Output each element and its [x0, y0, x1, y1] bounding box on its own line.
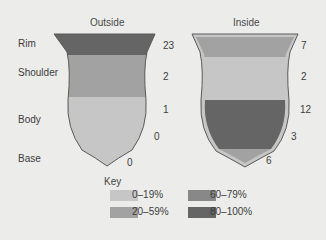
inside-shoulder-band — [190, 57, 300, 100]
outside-shoulder-value: 2 — [163, 71, 169, 82]
outside-body-value: 1 — [163, 104, 169, 115]
inside-lower-body-value: 3 — [291, 131, 297, 142]
inside-body-value: 12 — [300, 104, 311, 115]
inside-shoulder-value: 2 — [301, 71, 307, 82]
inside-pot — [190, 30, 300, 169]
key-label-80-100: 80–100% — [210, 206, 252, 217]
outside-lower-body-value: 0 — [154, 131, 160, 142]
inside-base-value: 6 — [266, 155, 272, 166]
inside-rim-value: 7 — [301, 40, 307, 51]
outside-body-band — [50, 97, 160, 172]
key-title: Key — [104, 176, 121, 187]
outside-base-value: 0 — [127, 157, 133, 168]
key-label-20-59: 20–59% — [132, 206, 169, 217]
outside-shoulder-band — [50, 55, 160, 97]
outside-rim-value: 23 — [163, 40, 174, 51]
key-label-60-79: 60–79% — [210, 189, 247, 200]
key-label-0-19: 0–19% — [132, 189, 163, 200]
